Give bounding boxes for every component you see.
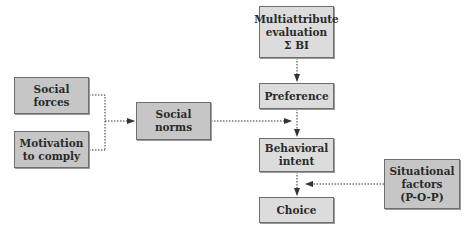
node-label: Situational factors (P-O-P) <box>389 165 454 204</box>
node-label: Social norms <box>155 108 192 134</box>
node-label: Choice <box>276 204 316 217</box>
node-preference: Preference <box>259 83 334 109</box>
node-social-norms: Social norms <box>136 102 211 140</box>
node-social-forces: Social forces <box>14 77 89 114</box>
node-label: Multiattribute evaluation Σ BI <box>254 13 339 52</box>
node-behavioral-intent: Behavioral intent <box>259 138 334 172</box>
node-label: Behavioral intent <box>265 142 328 168</box>
node-label: Social forces <box>33 83 69 109</box>
node-label: Motivation to comply <box>20 137 84 163</box>
node-situational-factors: Situational factors (P-O-P) <box>384 159 460 209</box>
edge-social-forces <box>89 95 105 150</box>
node-choice: Choice <box>259 197 334 223</box>
node-motivation-to-comply: Motivation to comply <box>14 131 89 168</box>
node-label: Preference <box>264 90 328 103</box>
node-multiattribute-evaluation: Multiattribute evaluation Σ BI <box>259 6 334 58</box>
